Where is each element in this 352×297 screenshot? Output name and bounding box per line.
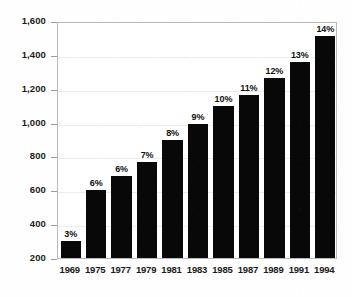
y-axis-tick: 1,600 (0, 22, 57, 23)
bar (111, 176, 131, 258)
bar-value-label: 13% (291, 50, 309, 60)
y-axis-tick: 400 (0, 225, 57, 226)
x-axis-tick-label: 1977 (108, 264, 133, 275)
y-axis-tick-mark (51, 259, 57, 260)
bar (315, 36, 335, 258)
bar-column: 6% (111, 21, 131, 258)
bar-column: 7% (137, 21, 157, 258)
x-axis-tick-label: 1991 (286, 264, 311, 275)
bar-column: 11% (239, 21, 259, 258)
bar-value-label: 9% (192, 112, 205, 122)
bar-value-label: 6% (115, 164, 128, 174)
x-axis-tick-label: 1983 (184, 264, 209, 275)
bar (290, 62, 310, 258)
bar (162, 140, 182, 259)
x-axis-tick-label: 1981 (159, 264, 184, 275)
bar-column: 9% (188, 21, 208, 258)
y-axis-tick-label: 400 (30, 218, 46, 229)
bar-value-label: 11% (240, 83, 257, 93)
y-axis-tick: 800 (0, 157, 57, 158)
bar (188, 124, 208, 258)
x-axis-tick-label: 1985 (210, 264, 235, 275)
y-axis-tick: 1,400 (0, 56, 57, 57)
bar-column: 8% (162, 21, 182, 258)
y-axis-tick-label: 200 (30, 252, 46, 263)
bar-column: 12% (264, 21, 284, 258)
x-axis-tick-label: 1989 (261, 264, 286, 275)
y-axis-tick-label: 1,600 (22, 15, 46, 26)
bar-column: 10% (213, 21, 233, 258)
x-axis-tick-label: 1994 (312, 264, 337, 275)
bar-chart: 1,6001,4001,2001,000800600400200 3%6%6%7… (0, 0, 352, 297)
bar-value-label: 14% (316, 24, 334, 34)
bar-value-label: 7% (141, 150, 154, 160)
plot-area: 3%6%6%7%8%9%10%11%12%13%14% (57, 22, 337, 259)
bar (61, 241, 81, 258)
y-axis-tick: 200 (0, 259, 57, 260)
bar-column: 6% (86, 21, 106, 258)
bar (264, 78, 284, 258)
bar-value-label: 12% (265, 66, 283, 76)
y-axis-tick: 600 (0, 191, 57, 192)
bar-value-label: 3% (64, 229, 77, 239)
bar (213, 106, 233, 258)
y-axis: 1,6001,4001,2001,000800600400200 (0, 0, 57, 297)
x-axis-tick-label: 1969 (57, 264, 82, 275)
bar-value-label: 10% (215, 94, 233, 104)
bar-column: 3% (61, 21, 81, 258)
bar (86, 190, 106, 258)
y-axis-tick-label: 1,200 (22, 83, 46, 94)
bar-value-label: 8% (166, 128, 179, 138)
bar-column: 13% (290, 21, 310, 258)
y-axis-tick: 1,000 (0, 124, 57, 125)
bar-value-label: 6% (90, 178, 103, 188)
y-axis-tick-label: 1,400 (22, 49, 46, 60)
bar-column: 14% (315, 21, 335, 258)
x-axis-tick-label: 1975 (82, 264, 107, 275)
y-axis-tick: 1,200 (0, 90, 57, 91)
y-axis-tick-label: 1,000 (22, 117, 46, 128)
x-axis-tick-label: 1979 (133, 264, 158, 275)
bar (239, 95, 259, 258)
x-axis-tick-label: 1987 (235, 264, 260, 275)
y-axis-tick-label: 800 (30, 150, 46, 161)
y-axis-tick-label: 600 (30, 184, 46, 195)
bar (137, 162, 157, 258)
